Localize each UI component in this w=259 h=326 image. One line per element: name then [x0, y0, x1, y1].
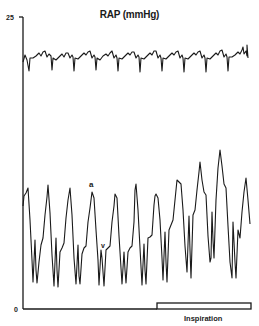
chart-plot	[0, 0, 259, 326]
inspiration-bar	[157, 303, 251, 309]
upper-tracing	[23, 45, 248, 72]
axes	[19, 17, 251, 309]
lower-tracing	[23, 150, 250, 287]
